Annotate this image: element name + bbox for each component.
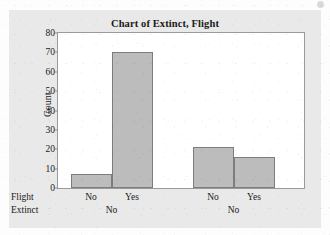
x-group-label: No (106, 205, 118, 215)
x-tick-label: No (85, 192, 97, 202)
x-tick-label: No (207, 192, 219, 202)
y-tick-mark (55, 149, 58, 150)
y-tick-mark (55, 129, 58, 130)
y-tick-label: 70 (46, 47, 56, 57)
y-tick-label: 60 (46, 67, 56, 77)
y-tick-label: 30 (46, 125, 56, 135)
chart-panel: Chart of Extinct, Flight Count 807060504… (9, 10, 321, 228)
x-tick-label: Yes (125, 192, 139, 202)
y-tick-label: 40 (46, 106, 56, 116)
bar (234, 157, 275, 188)
chart-title: Chart of Extinct, Flight (9, 18, 321, 29)
y-tick-label: 80 (46, 28, 56, 38)
y-tick-mark (55, 110, 58, 111)
y-tick-mark (55, 33, 58, 34)
y-tick-mark (55, 188, 58, 189)
bar (71, 174, 112, 188)
bar (193, 147, 234, 188)
y-tick-label: 10 (46, 164, 56, 174)
y-tick-mark (55, 91, 58, 92)
bar (112, 52, 153, 188)
scan-smudge (317, 1, 324, 8)
plot-area: Count 80706050403020100 (57, 32, 305, 189)
x-group-label: No (228, 205, 240, 215)
y-tick-label: 20 (46, 144, 56, 154)
y-tick-label: 50 (46, 86, 56, 96)
x-tick-label: Yes (247, 192, 261, 202)
y-tick-mark (55, 52, 58, 53)
x-axis-row-name-flight: Flight (11, 192, 34, 202)
scanned-page: Chart of Extinct, Flight Count 807060504… (0, 0, 330, 235)
x-axis-row-name-extinct: Extinct (11, 205, 38, 215)
y-tick-mark (55, 71, 58, 72)
y-tick-mark (55, 168, 58, 169)
